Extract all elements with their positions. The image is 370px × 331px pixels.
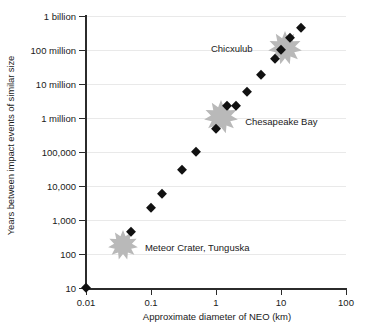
- x-axis-tick: [216, 289, 217, 295]
- x-axis-title: Approximate diameter of NEO (km): [86, 311, 348, 322]
- y-axis-tick-label: 1 million: [41, 113, 76, 124]
- y-axis-tick-label: 1 billion: [44, 11, 76, 22]
- y-axis-tick-label: 10 million: [36, 79, 76, 90]
- y-axis-tick-label: 100 million: [31, 45, 76, 56]
- y-axis-tick-label: 100: [60, 249, 76, 260]
- annotation-label: Chicxulub: [211, 42, 253, 53]
- y-axis-tick-label: 1,000: [52, 215, 76, 226]
- impact-frequency-chart: Years between impact events of similar s…: [0, 0, 370, 331]
- gridline: [86, 220, 346, 221]
- y-axis-tick: [79, 152, 86, 153]
- x-axis-tick-label: 10: [276, 297, 287, 308]
- x-axis-tick: [346, 289, 347, 295]
- gridline: [86, 84, 346, 85]
- y-axis-tick-label: 10,000: [47, 181, 76, 192]
- y-axis-tick: [79, 254, 86, 255]
- y-axis-tick: [79, 220, 86, 221]
- y-axis-tick: [79, 16, 86, 17]
- x-axis-tick: [151, 289, 152, 295]
- gridline: [86, 16, 346, 17]
- gridline: [86, 186, 346, 187]
- gridline: [86, 152, 346, 153]
- annotation-label: Meteor Crater, Tunguska: [145, 241, 250, 252]
- y-axis-tick-label: 100,000: [42, 147, 76, 158]
- x-axis-tick-label: 1: [213, 297, 218, 308]
- y-axis-tick: [79, 84, 86, 85]
- x-axis-tick-label: 0.01: [77, 297, 96, 308]
- y-axis-tick: [79, 186, 86, 187]
- y-axis-tick: [79, 50, 86, 51]
- x-axis-tick: [281, 289, 282, 295]
- annotation-label: Chesapeake Bay: [245, 115, 317, 126]
- y-axis-title: Years between impact events of similar s…: [0, 0, 22, 290]
- x-axis-tick-label: 0.1: [144, 297, 157, 308]
- y-axis-tick: [79, 118, 86, 119]
- y-axis-tick-label: 10: [65, 283, 76, 294]
- x-axis-tick-label: 100: [338, 297, 354, 308]
